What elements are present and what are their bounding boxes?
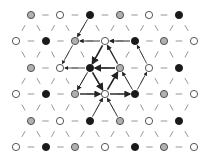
bold-arrow [137, 45, 146, 63]
light-edge [66, 105, 69, 111]
node-white [12, 37, 19, 44]
node-black [86, 64, 93, 71]
bold-arrow [62, 45, 72, 63]
node-white [190, 90, 197, 97]
light-edge [126, 52, 129, 58]
node-white [56, 64, 63, 71]
node-white [12, 90, 19, 97]
node-white [145, 11, 152, 18]
node-gray [27, 64, 34, 71]
node-white [56, 117, 63, 124]
light-edge [111, 131, 114, 137]
light-edge [96, 131, 99, 137]
node-white [56, 11, 63, 18]
node-black [42, 37, 49, 44]
node-black [86, 11, 93, 18]
node-white [12, 143, 19, 150]
node-black [131, 90, 138, 97]
node-gray [160, 143, 167, 150]
node-black [42, 90, 49, 97]
node-black [175, 11, 182, 18]
light-edge [37, 25, 40, 31]
light-edge [185, 131, 188, 137]
light-edge [37, 78, 40, 84]
light-edge [22, 25, 25, 31]
light-edge [185, 105, 188, 111]
lattice-diagram [0, 0, 210, 163]
light-edge [126, 131, 129, 137]
light-edge [66, 25, 69, 31]
light-edge [185, 25, 188, 31]
light-edge [155, 78, 158, 84]
node-gray [27, 117, 34, 124]
node-black [175, 64, 182, 71]
light-edge [51, 131, 54, 137]
node-gray [71, 37, 78, 44]
light-edge [170, 105, 173, 111]
light-edge [185, 78, 188, 84]
light-edge [140, 25, 143, 31]
light-edge [170, 25, 173, 31]
light-edge [51, 105, 54, 111]
node-gray [160, 37, 167, 44]
light-edge [170, 78, 173, 84]
light-edge [37, 105, 40, 111]
light-edge [170, 52, 173, 58]
node-white [101, 143, 108, 150]
node-white [101, 37, 108, 44]
light-edge [66, 131, 69, 137]
bold-arrow [92, 98, 102, 116]
light-edges [22, 15, 188, 147]
light-edge [155, 131, 158, 137]
light-edge [155, 105, 158, 111]
node-white [101, 90, 108, 97]
light-edge [126, 105, 129, 111]
node-gray [27, 11, 34, 18]
light-edge [111, 25, 114, 31]
node-gray [160, 90, 167, 97]
light-edge [81, 52, 84, 58]
light-edge [22, 78, 25, 84]
light-edge [22, 105, 25, 111]
light-edge [185, 52, 188, 58]
light-edge [81, 105, 84, 111]
light-edge [22, 52, 25, 58]
node-black [42, 143, 49, 150]
light-edge [126, 25, 129, 31]
bold-arrow [137, 72, 146, 89]
node-white [145, 117, 152, 124]
bold-arrow [122, 72, 132, 89]
light-edge [22, 131, 25, 137]
node-gray [116, 64, 123, 71]
node-black [131, 143, 138, 150]
light-edge [51, 25, 54, 31]
bold-arrow [77, 19, 87, 36]
node-white [190, 37, 197, 44]
bold-arrow [92, 72, 102, 89]
node-gray [116, 11, 123, 18]
bold-arrow [107, 45, 117, 63]
bold-arrow [92, 45, 102, 63]
light-edge [37, 131, 40, 137]
node-black [86, 117, 93, 124]
light-edge [155, 25, 158, 31]
light-edge [37, 52, 40, 58]
light-edge [140, 131, 143, 137]
light-edge [51, 52, 54, 58]
bold-arrow [77, 72, 87, 89]
node-gray [71, 90, 78, 97]
bold-arrow [107, 98, 117, 116]
node-black [175, 117, 182, 124]
light-edge [66, 78, 69, 84]
light-edge [81, 131, 84, 137]
light-edge [140, 105, 143, 111]
lattice-nodes [12, 11, 197, 150]
node-black [131, 37, 138, 44]
light-edge [51, 78, 54, 84]
light-edge [96, 25, 99, 31]
light-edge [155, 52, 158, 58]
node-gray [71, 143, 78, 150]
node-white [145, 64, 152, 71]
node-gray [116, 117, 123, 124]
light-edge [170, 131, 173, 137]
